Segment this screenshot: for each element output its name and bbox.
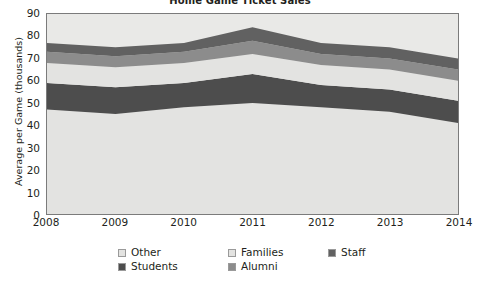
x-axis-tick-label: 2012 <box>291 217 351 228</box>
y-axis-tick-label: 80 <box>0 30 40 41</box>
legend-item-families[interactable]: Families <box>228 246 283 259</box>
legend-item-students[interactable]: Students <box>118 260 178 273</box>
y-axis-tick-label: 40 <box>0 120 40 131</box>
legend-swatch-icon <box>228 249 236 257</box>
legend-row: OtherFamiliesStaff <box>118 246 378 259</box>
legend-label: Alumni <box>241 261 278 272</box>
legend-label: Staff <box>341 247 365 258</box>
y-axis-tick-label: 10 <box>0 188 40 199</box>
legend-swatch-icon <box>228 263 236 271</box>
y-axis-tick-label: 60 <box>0 75 40 86</box>
legend-row: StudentsAlumni <box>118 260 378 273</box>
y-axis-tick-label: 90 <box>0 8 40 19</box>
x-axis-tick-label: 2009 <box>85 217 145 228</box>
stacked-area-chart: Home Game Ticket Sales Average per Game … <box>0 0 480 282</box>
plot-area <box>46 13 459 215</box>
legend-label: Families <box>241 247 283 258</box>
legend-item-other[interactable]: Other <box>118 246 161 259</box>
legend-swatch-icon <box>118 249 126 257</box>
legend-label: Students <box>131 261 178 272</box>
area-series-other <box>47 103 458 214</box>
legend-item-alumni[interactable]: Alumni <box>228 260 278 273</box>
x-axis-tick-label: 2014 <box>429 217 480 228</box>
y-axis-tick-label: 70 <box>0 53 40 64</box>
x-axis-tick-label: 2013 <box>360 217 420 228</box>
legend-swatch-icon <box>118 263 126 271</box>
y-axis-tick-label: 30 <box>0 143 40 154</box>
x-axis-tick-label: 2011 <box>223 217 283 228</box>
x-axis-tick-label: 2010 <box>154 217 214 228</box>
plot-series-svg <box>47 14 458 214</box>
legend-swatch-icon <box>328 249 336 257</box>
legend-label: Other <box>131 247 161 258</box>
legend-item-staff[interactable]: Staff <box>328 246 365 259</box>
y-axis-tick-label: 50 <box>0 98 40 109</box>
y-axis-tick-label: 20 <box>0 165 40 176</box>
x-axis-tick-label: 2008 <box>16 217 76 228</box>
